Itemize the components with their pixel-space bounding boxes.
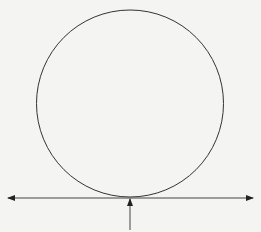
diagram-canvas bbox=[0, 0, 261, 232]
circle bbox=[37, 10, 224, 197]
